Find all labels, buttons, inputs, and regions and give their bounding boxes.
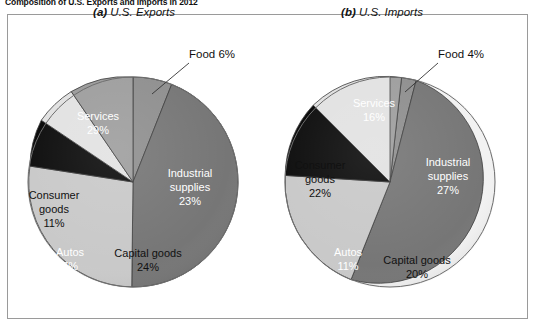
panel-b-header: (b) U.S. Imports — [252, 6, 512, 18]
panel-a-header: (a) U.S. Exports — [4, 6, 264, 18]
panel-a-title: U.S. Exports — [110, 6, 175, 18]
panel-b-title: U.S. Imports — [359, 6, 423, 18]
panel-us-exports: (a) U.S. Exports — [4, 0, 264, 329]
panel-a-letter: (a) — [93, 6, 107, 18]
panel-us-imports: (b) U.S. Imports — [252, 0, 512, 329]
panel-b-letter: (b) — [341, 6, 356, 18]
